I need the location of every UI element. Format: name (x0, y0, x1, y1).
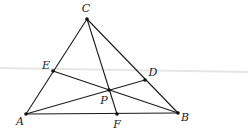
segment-be (53, 71, 178, 113)
point-f (115, 112, 119, 116)
point-d (143, 78, 147, 82)
label-c: C (82, 2, 91, 15)
label-b: B (180, 111, 189, 124)
point-p (107, 88, 111, 92)
point-e (51, 69, 55, 73)
label-f: F (112, 118, 121, 129)
label-d: D (148, 66, 158, 79)
label-e: E (41, 59, 50, 72)
point-c (85, 17, 89, 21)
point-b (176, 111, 180, 115)
segment-ab (26, 113, 178, 114)
segment-ad (26, 80, 145, 114)
triangle-cevian-diagram: ABCDEFP (0, 0, 248, 129)
scan-artifact-line (0, 68, 248, 72)
label-p: P (99, 94, 108, 107)
point-a (24, 112, 28, 116)
label-a: A (15, 115, 24, 128)
